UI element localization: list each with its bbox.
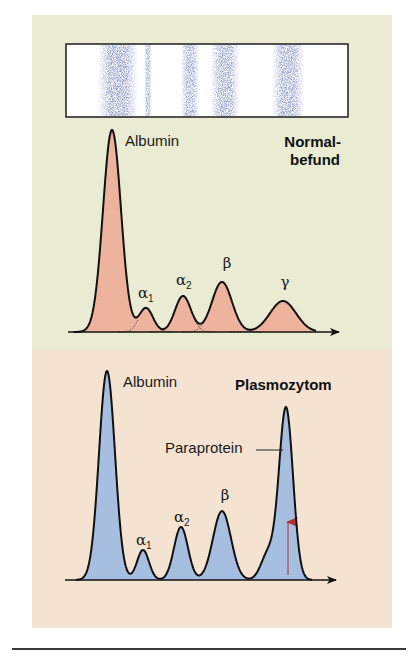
normal-alpha2-label: α 2 xyxy=(176,271,192,291)
plasmocytoma-beta-label: β xyxy=(221,486,230,504)
gel-band-gamma xyxy=(272,45,304,116)
alpha-symbol: α xyxy=(174,508,184,526)
gel-band-albumin xyxy=(98,45,138,116)
gel-band-beta xyxy=(211,45,240,116)
plasmocytoma-alpha1-label: α 1 xyxy=(136,531,152,551)
alpha-symbol: α xyxy=(176,271,186,289)
normal-beta-label: β xyxy=(223,254,232,272)
subscript-1: 1 xyxy=(148,293,154,304)
electrophoresis-diagram: Albumin Normal- befund α 1 α 2 β γ Album… xyxy=(0,0,414,659)
normal-alpha1-label: α 1 xyxy=(138,284,154,304)
normal-albumin-label: Albumin xyxy=(125,132,179,149)
gel-band-alpha2 xyxy=(181,45,199,116)
normal-title-line1: Normal- xyxy=(284,133,341,150)
subscript-1: 1 xyxy=(146,540,152,551)
plasmocytoma-title: Plasmozytom xyxy=(235,376,332,393)
paraprotein-label: Paraprotein xyxy=(165,439,243,456)
plasmocytoma-albumin-label: Albumin xyxy=(123,373,177,390)
plasmocytoma-curve xyxy=(65,371,336,580)
gel-strip xyxy=(66,44,348,117)
normal-gamma-label: γ xyxy=(281,273,290,291)
alpha-symbol: α xyxy=(138,284,148,302)
subscript-2: 2 xyxy=(186,280,192,291)
normal-title-line2: befund xyxy=(290,151,340,168)
subscript-2: 2 xyxy=(184,517,190,528)
plasmocytoma-alpha2-label: α 2 xyxy=(174,508,190,528)
figure: Albumin Normal- befund α 1 α 2 β γ Album… xyxy=(0,0,414,659)
alpha-symbol: α xyxy=(136,531,146,549)
gel-band-alpha1 xyxy=(144,45,151,116)
